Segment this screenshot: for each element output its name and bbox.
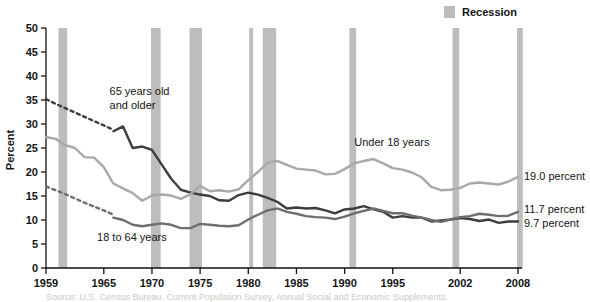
x-tick-label: 2008 bbox=[506, 277, 530, 289]
recession-band bbox=[59, 28, 68, 268]
end-label-under-18: 19.0 percent bbox=[524, 170, 585, 182]
label-18-to-64: 18 to 64 years bbox=[97, 231, 167, 243]
series-line-dashed bbox=[46, 99, 113, 130]
legend-group: Recession bbox=[444, 6, 517, 18]
y-tick-label: 5 bbox=[32, 238, 38, 250]
y-tick-label: 50 bbox=[26, 22, 38, 34]
x-tick-label: 1970 bbox=[140, 277, 164, 289]
label-65-and-older: 65 years old bbox=[110, 85, 170, 97]
x-tick-label: 1995 bbox=[381, 277, 405, 289]
data-series-group bbox=[46, 99, 518, 228]
label-65-and-older-line2: and older bbox=[110, 99, 156, 111]
source-caption: Source: U.S. Census Bureau, Current Popu… bbox=[46, 292, 466, 302]
y-tick-label: 35 bbox=[26, 94, 38, 106]
recession-band bbox=[249, 28, 253, 268]
recession-band bbox=[517, 28, 523, 268]
recession-band bbox=[349, 28, 356, 268]
x-tick-label: 1985 bbox=[284, 277, 308, 289]
x-tick-label: 1980 bbox=[236, 277, 260, 289]
end-label-65-older: 9.7 percent bbox=[524, 217, 579, 229]
recession-legend-label: Recession bbox=[462, 6, 517, 18]
recession-band bbox=[263, 28, 276, 268]
y-tick-label: 40 bbox=[26, 70, 38, 82]
y-tick-label: 45 bbox=[26, 46, 38, 58]
x-tick-label: 1990 bbox=[332, 277, 356, 289]
y-axis-ticks: 05101520253035404550 bbox=[26, 22, 46, 274]
series-line bbox=[46, 137, 518, 201]
label-under-18: Under 18 years bbox=[354, 136, 430, 148]
y-tick-label: 0 bbox=[32, 262, 38, 274]
y-axis-title: Percent bbox=[4, 129, 16, 170]
x-tick-label: 2002 bbox=[448, 277, 472, 289]
y-tick-label: 10 bbox=[26, 214, 38, 226]
y-tick-label: 25 bbox=[26, 142, 38, 154]
y-tick-label: 20 bbox=[26, 166, 38, 178]
end-label-18-to-64: 11.7 percent bbox=[524, 203, 584, 215]
recession-band bbox=[452, 28, 459, 268]
x-tick-label: 1959 bbox=[34, 277, 58, 289]
x-tick-label: 1975 bbox=[188, 277, 212, 289]
recession-legend-swatch bbox=[444, 6, 455, 18]
y-tick-label: 30 bbox=[26, 118, 38, 130]
recession-band bbox=[190, 28, 203, 268]
end-value-labels-group: 19.0 percent11.7 percent9.7 percent bbox=[524, 170, 585, 229]
x-axis-ticks: 1959196519701975198019851990199520022008 bbox=[34, 268, 530, 289]
y-tick-label: 15 bbox=[26, 190, 38, 202]
series-line-dashed bbox=[46, 186, 113, 214]
x-tick-label: 1965 bbox=[92, 277, 116, 289]
